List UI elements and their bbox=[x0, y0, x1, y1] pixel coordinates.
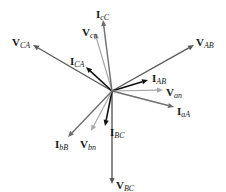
label-v-ab: VAB bbox=[196, 37, 214, 50]
arrowhead-icon bbox=[109, 178, 114, 184]
label-i-bc: IBC bbox=[110, 127, 125, 140]
label-v-bc: VBC bbox=[116, 180, 134, 192]
arrowhead-icon bbox=[168, 103, 174, 108]
arrowhead-icon bbox=[157, 88, 163, 93]
label-i-bb: IbB bbox=[55, 139, 68, 152]
phasor-i-aa-arrow bbox=[112, 91, 174, 108]
label-v-ca: VCA bbox=[12, 37, 30, 50]
arrowhead-icon bbox=[104, 120, 109, 126]
phasor-diagram bbox=[0, 0, 226, 192]
phasor-i-cc-arrow bbox=[101, 20, 112, 91]
arrowhead-icon bbox=[142, 79, 148, 84]
phasor-i-bb-arrow bbox=[68, 91, 112, 137]
label-v-an: Van bbox=[166, 87, 182, 100]
label-i-aa: IaA bbox=[177, 106, 190, 119]
label-i-cc: IcC bbox=[96, 9, 109, 22]
label-i-ca: ICA bbox=[70, 56, 85, 69]
label-i-ab: IAB bbox=[152, 73, 166, 86]
label-v-cn: Vcn bbox=[82, 27, 98, 40]
label-v-bn: Vbn bbox=[80, 139, 96, 152]
phasor-v-bn-arrow bbox=[91, 91, 112, 131]
